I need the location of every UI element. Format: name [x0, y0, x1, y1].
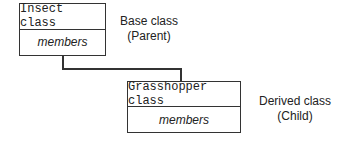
inheritance-diagram: Insect class members Base class (Parent)… [0, 0, 344, 141]
derived-class-label: Derived class (Child) [254, 94, 336, 124]
base-label-line1: Base class [118, 14, 180, 29]
base-class-members: members [20, 30, 105, 56]
base-label-line2: (Parent) [118, 29, 180, 44]
derived-class-members: members [128, 107, 240, 132]
base-class-box: Insect class members [19, 3, 106, 56]
connector-horizontal [62, 68, 181, 70]
base-class-label: Base class (Parent) [118, 14, 180, 44]
derived-class-name: Grasshopper class [128, 82, 240, 107]
derived-label-line1: Derived class [254, 94, 336, 109]
base-class-name: Insect class [20, 4, 105, 30]
derived-label-line2: (Child) [254, 109, 336, 124]
derived-class-box: Grasshopper class members [127, 81, 241, 133]
